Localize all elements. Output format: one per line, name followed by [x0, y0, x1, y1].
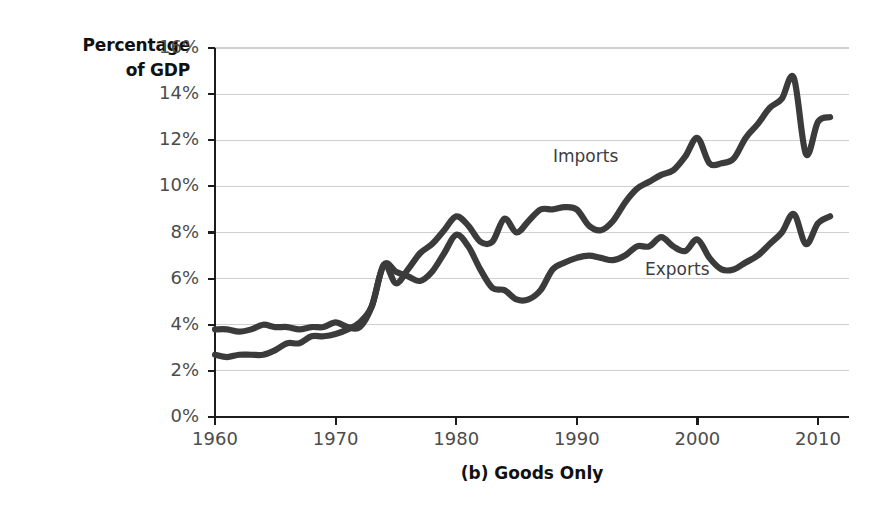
series-line-imports — [215, 76, 830, 357]
y-tick-label-14pct: 14% — [147, 82, 199, 103]
y-tick-label-16pct: 16% — [147, 36, 199, 57]
x-tick-label-1990: 1990 — [542, 428, 612, 449]
y-tick-label-12pct: 12% — [147, 128, 199, 149]
y-tick-label-2pct: 2% — [147, 359, 199, 380]
chart-root: Percentage of GDP 0%2%4%6%8%10%12%14%16%… — [0, 0, 889, 513]
y-tick-label-0pct: 0% — [147, 405, 199, 426]
y-tick-label-6pct: 6% — [147, 267, 199, 288]
y-tick-label-4pct: 4% — [147, 313, 199, 334]
x-tick-label-1980: 1980 — [421, 428, 491, 449]
y-tick-label-10pct: 10% — [147, 174, 199, 195]
x-tick-label-1960: 1960 — [180, 428, 250, 449]
y-tick-label-8pct: 8% — [147, 221, 199, 242]
x-tick-label-1970: 1970 — [301, 428, 371, 449]
figure-caption: (b) Goods Only — [215, 463, 849, 483]
series-label-imports: Imports — [553, 146, 618, 166]
x-tick-label-2010: 2010 — [783, 428, 853, 449]
x-tick-label-2000: 2000 — [662, 428, 732, 449]
series-label-exports: Exports — [645, 259, 710, 279]
